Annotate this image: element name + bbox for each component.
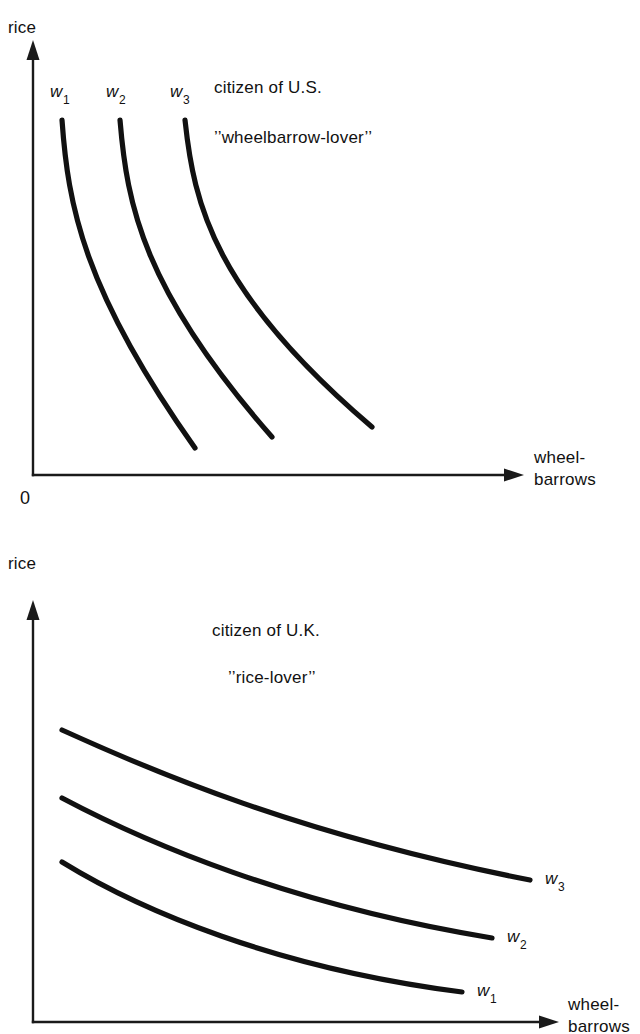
- curve-w3: [62, 730, 530, 880]
- curve-label-w3-subscript: 3: [558, 880, 565, 894]
- x-axis-label: wheel-barrows: [568, 994, 630, 1034]
- x-axis-label-line2: barrows: [534, 470, 596, 489]
- curve-label-w3-letter: w: [170, 82, 182, 101]
- curve-label-w1-subscript: 1: [63, 93, 70, 107]
- annotation-citizen-us: citizen of U.S.: [214, 78, 322, 98]
- curve-label-w3: w3: [170, 82, 189, 102]
- chart-panel-us: rice wheel-barrows 0 citizen of U.S. ’’w…: [0, 0, 640, 520]
- y-axis-arrow-icon: [27, 600, 40, 620]
- curve-label-w2-letter: w: [106, 82, 118, 101]
- curve-label-w3: w3: [545, 869, 564, 889]
- curve-w2: [62, 798, 492, 938]
- curve-label-w2-letter: w: [507, 927, 519, 946]
- curve-label-w1-letter: w: [477, 981, 489, 1000]
- annotation-wheelbarrow-lover: ’’wheelbarrow-lover’’: [214, 128, 372, 148]
- curve-label-w2-subscript: 2: [520, 938, 527, 952]
- curve-label-w2-subscript: 2: [119, 93, 126, 107]
- x-axis-label: wheel-barrows: [534, 447, 596, 491]
- y-axis-label: rice: [8, 18, 36, 38]
- curve-label-w2: w2: [106, 82, 125, 102]
- indifference-curve-figure: rice wheel-barrows 0 citizen of U.S. ’’w…: [0, 0, 640, 1034]
- annotation-rice-lover: ’’rice-lover’’: [228, 668, 316, 688]
- curve-label-w2: w2: [507, 927, 526, 947]
- x-axis-label-line1: wheel-: [534, 448, 585, 467]
- chart-panel-uk: rice wheel-barrows citizen of U.K. ’’ric…: [0, 520, 640, 1034]
- annotation-citizen-uk: citizen of U.K.: [212, 621, 320, 641]
- curve-w3: [185, 120, 372, 427]
- curve-label-w1: w1: [477, 981, 496, 1001]
- x-axis-arrow-icon: [539, 1016, 559, 1029]
- x-axis-arrow-icon: [504, 469, 524, 482]
- chart-plot-uk: [0, 520, 640, 1034]
- curve-label-w1-subscript: 1: [490, 992, 497, 1006]
- origin-label: 0: [20, 488, 30, 509]
- curve-label-w3-letter: w: [545, 869, 557, 888]
- curve-w2: [120, 120, 272, 437]
- x-axis-label-line2: barrows: [568, 1017, 630, 1034]
- curve-w1: [62, 120, 195, 448]
- y-axis-label: rice: [8, 554, 36, 574]
- curve-label-w1: w1: [50, 82, 69, 102]
- x-axis-label-line1: wheel-: [568, 995, 619, 1014]
- y-axis-arrow-icon: [27, 40, 40, 60]
- curve-label-w1-letter: w: [50, 82, 62, 101]
- curve-label-w3-subscript: 3: [183, 93, 190, 107]
